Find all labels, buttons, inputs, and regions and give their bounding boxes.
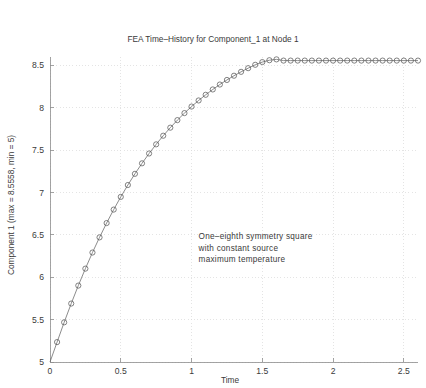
y-tick-label: 7 <box>39 188 44 198</box>
y-tick-label: 5.5 <box>32 315 44 325</box>
x-tick-label: 1 <box>189 366 194 376</box>
x-tick-label: 0 <box>48 366 53 376</box>
y-axis-title: Component 1 (max = 8.5558, min = 5) <box>6 135 16 275</box>
x-tick-label: 0.5 <box>115 366 127 376</box>
figure-canvas: 00.511.522.5 55.566.577.588.5 FEA Time–H… <box>0 0 426 388</box>
y-tick-label: 6.5 <box>32 230 44 240</box>
y-tick-label: 8.5 <box>32 60 44 70</box>
fea-time-history-chart: 00.511.522.5 55.566.577.588.5 FEA Time–H… <box>0 0 426 388</box>
x-axis-title: Time <box>221 375 240 385</box>
y-tick-label: 7.5 <box>32 145 44 155</box>
chart-title: FEA Time–History for Component_1 at Node… <box>127 34 298 44</box>
model-description-line: maximum temperature <box>199 255 286 264</box>
model-description-line: with constant source <box>198 244 279 253</box>
y-tick-label: 6 <box>39 272 44 282</box>
x-tick-label: 2.5 <box>398 366 410 376</box>
y-tick-label: 8 <box>39 103 44 113</box>
model-description-line: One–eighth symmetry square <box>199 232 313 241</box>
x-tick-label: 2 <box>331 366 336 376</box>
y-tick-label: 5 <box>39 357 44 367</box>
x-tick-label: 1.5 <box>256 366 268 376</box>
